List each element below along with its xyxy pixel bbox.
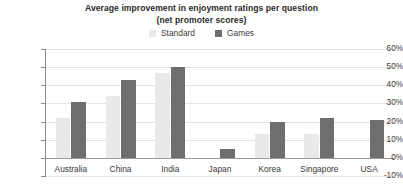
bar-games-singapore[interactable] bbox=[320, 118, 335, 158]
bar-games-usa[interactable] bbox=[370, 120, 385, 158]
x-axis-label-china: China bbox=[96, 164, 146, 174]
bar-group bbox=[46, 49, 96, 176]
bar-group bbox=[96, 49, 146, 176]
legend-swatch-icon-standard bbox=[149, 30, 156, 37]
bar-standard-singapore[interactable] bbox=[304, 134, 319, 158]
legend-label-standard: Standard bbox=[161, 29, 195, 38]
x-axis-labels: AustraliaChinaIndiaJapanKoreaSingaporeUS… bbox=[46, 164, 394, 178]
y-axis-tick bbox=[41, 140, 45, 141]
y-axis-tick bbox=[41, 176, 45, 177]
bar-games-india[interactable] bbox=[171, 67, 186, 158]
y-axis-tick bbox=[41, 122, 45, 123]
legend-swatch-icon-games bbox=[215, 30, 222, 37]
legend-item-standard[interactable]: Standard bbox=[149, 29, 195, 38]
legend-item-games[interactable]: Games bbox=[215, 29, 254, 38]
y-axis-tick bbox=[41, 158, 45, 159]
bar-group bbox=[344, 49, 394, 176]
y-axis-tick bbox=[41, 49, 45, 50]
chart-legend: Standard Games bbox=[0, 29, 403, 38]
chart-title-line-2: (net promoter scores) bbox=[0, 15, 403, 27]
bar-group bbox=[195, 49, 245, 176]
y-axis-tick bbox=[41, 103, 45, 104]
bar-games-korea[interactable] bbox=[270, 122, 285, 158]
bar-games-japan[interactable] bbox=[220, 149, 235, 158]
y-axis-tick bbox=[41, 85, 45, 86]
bar-standard-korea[interactable] bbox=[255, 134, 270, 158]
bars-layer bbox=[46, 49, 394, 176]
bar-standard-china[interactable] bbox=[106, 96, 121, 158]
bar-standard-india[interactable] bbox=[155, 73, 170, 158]
bar-games-china[interactable] bbox=[121, 80, 136, 158]
bar-group bbox=[295, 49, 345, 176]
bar-games-australia[interactable] bbox=[71, 102, 86, 158]
y-axis-tick bbox=[41, 67, 45, 68]
chart-title-line-1: Average improvement in enjoyment ratings… bbox=[0, 3, 403, 15]
x-axis-label-korea: Korea bbox=[245, 164, 295, 174]
bar-group bbox=[145, 49, 195, 176]
x-axis-label-singapore: Singapore bbox=[295, 164, 345, 174]
bar-standard-australia[interactable] bbox=[56, 118, 71, 158]
bar-group bbox=[245, 49, 295, 176]
x-axis-label-japan: Japan bbox=[195, 164, 245, 174]
chart-title: Average improvement in enjoyment ratings… bbox=[0, 3, 403, 26]
bar-chart: Average improvement in enjoyment ratings… bbox=[0, 0, 403, 189]
x-axis-label-australia: Australia bbox=[46, 164, 96, 174]
legend-label-games: Games bbox=[227, 29, 254, 38]
x-axis-label-india: India bbox=[145, 164, 195, 174]
x-axis-label-usa: USA bbox=[344, 164, 394, 174]
